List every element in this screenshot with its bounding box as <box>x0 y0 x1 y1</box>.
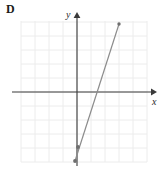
y-axis <box>74 12 81 166</box>
graph-figure: D <box>0 0 161 169</box>
x-axis <box>12 89 157 96</box>
coordinate-plane: x y <box>0 0 161 169</box>
x-axis-label: x <box>151 96 157 107</box>
y-axis-label: y <box>65 9 71 20</box>
